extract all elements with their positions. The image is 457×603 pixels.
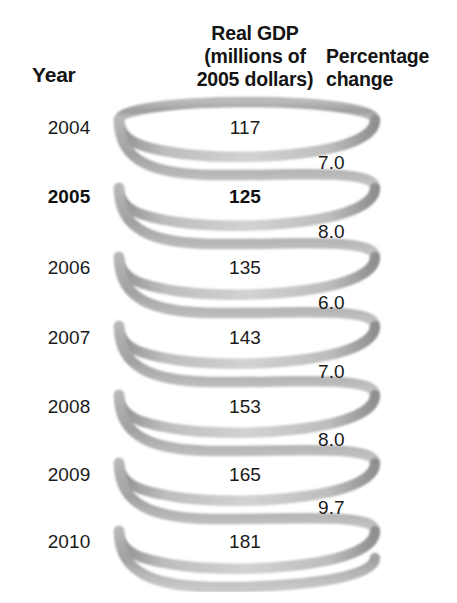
header-gdp-line2: (millions of [186, 45, 324, 68]
gdp-value-label: 181 [196, 531, 294, 553]
year-label: 2004 [26, 117, 112, 139]
header-year-text: Year [32, 63, 76, 87]
header-pct-line1: Percentage [326, 45, 451, 68]
percentage-change-label: 8.0 [318, 429, 378, 451]
percentage-change-label: 8.0 [318, 221, 378, 243]
percentage-change-label: 6.0 [318, 292, 378, 314]
column-header-percentage-change: Percentage change [326, 45, 451, 91]
year-label: 2005 [26, 186, 112, 208]
header-gdp-line3: 2005 dollars) [186, 68, 324, 91]
year-label: 2007 [26, 327, 112, 349]
gdp-value-label: 117 [196, 117, 294, 139]
column-header-year: Year [32, 63, 76, 87]
gdp-value-label: 135 [196, 257, 294, 279]
year-label: 2009 [26, 464, 112, 486]
year-label: 2010 [26, 531, 112, 553]
growth-spiral-figure: Year Real GDP (millions of 2005 dollars)… [0, 0, 457, 603]
percentage-change-label: 9.7 [318, 497, 378, 519]
year-label: 2008 [26, 396, 112, 418]
year-label: 2006 [26, 257, 112, 279]
gdp-value-label: 125 [196, 186, 294, 208]
gdp-value-label: 165 [196, 464, 294, 486]
column-header-real-gdp: Real GDP (millions of 2005 dollars) [186, 22, 324, 91]
header-pct-line2: change [326, 68, 451, 91]
gdp-value-label: 143 [196, 327, 294, 349]
percentage-change-label: 7.0 [318, 152, 378, 174]
header-gdp-line1: Real GDP [186, 22, 324, 45]
percentage-change-label: 7.0 [318, 361, 378, 383]
gdp-value-label: 153 [196, 396, 294, 418]
